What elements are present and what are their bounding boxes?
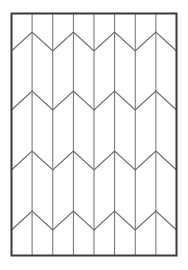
chevron-pattern-figure (0, 0, 188, 270)
pattern-svg (0, 0, 188, 270)
